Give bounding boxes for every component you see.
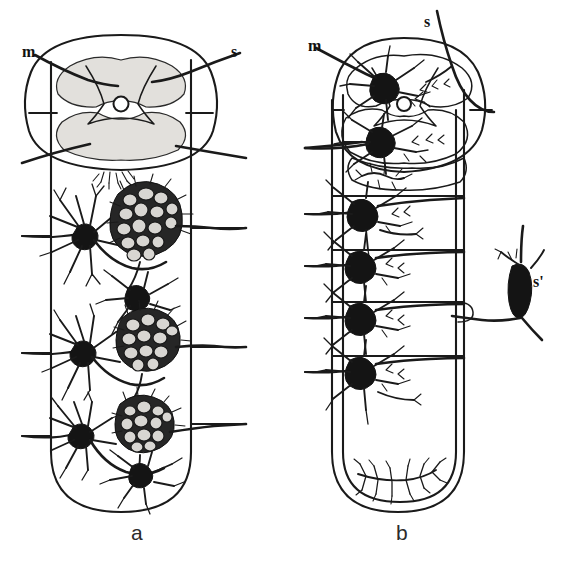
figure-root: m s m s s' a b xyxy=(0,0,567,566)
panel-a-nerve-right-1 xyxy=(176,146,246,158)
label-panel-b-sensory-fibre: s xyxy=(424,14,430,30)
panel-b-caption: b xyxy=(396,522,408,543)
panel-b-body-wall-inner xyxy=(343,95,456,502)
label-panel-a-motor-fibre: m xyxy=(22,44,35,60)
label-panel-a-sensory-fibre: s xyxy=(231,44,237,60)
figure-drawing xyxy=(0,0,567,566)
panel-a-neuron-1-right-arbor xyxy=(107,174,246,290)
panel-b-sprime-cell xyxy=(452,226,544,340)
panel-a-drawing xyxy=(22,35,246,514)
panel-a-lower-lobe xyxy=(56,112,185,160)
panel-b-neuron-seg-2 xyxy=(305,232,464,302)
panel-b-neuron-head-upper xyxy=(340,46,450,120)
panel-a-neuron-3-bottom xyxy=(100,450,184,514)
panel-b-central-canal xyxy=(397,97,411,111)
panel-a-central-canal xyxy=(114,97,129,112)
label-panel-b-motor-fibre: m xyxy=(308,38,321,54)
label-panel-b-peripheral-sensory-cell: s' xyxy=(533,274,544,290)
panel-b-drawing xyxy=(305,11,544,512)
panel-a-neuron-3-right-arbor xyxy=(112,387,246,476)
panel-a-caption: a xyxy=(131,522,143,543)
